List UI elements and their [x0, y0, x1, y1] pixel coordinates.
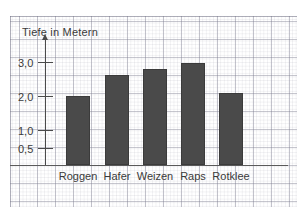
bar-roggen[interactable]: [66, 96, 90, 165]
bar-hafer[interactable]: [105, 75, 129, 165]
y-tick-label-1: 2,0: [18, 91, 33, 103]
bar-weizen[interactable]: [143, 69, 167, 165]
y-tick-mark-0: [38, 62, 53, 63]
x-axis-line: [10, 165, 288, 166]
bar-rotklee[interactable]: [219, 93, 243, 165]
y-tick-label-3: 0,5: [18, 143, 33, 155]
y-tick-mark-2: [38, 130, 53, 131]
bar-chart: Tiefe in Metern 3,02,01,00,5 RoggenHafer…: [0, 0, 297, 207]
x-tick-label-rotklee: Rotklee: [197, 170, 265, 182]
chart-title: Tiefe in Metern: [22, 26, 98, 38]
y-tick-label-0: 3,0: [18, 57, 33, 69]
y-tick-mark-1: [38, 96, 53, 97]
y-tick-mark-3: [38, 148, 53, 149]
bar-raps[interactable]: [181, 63, 205, 165]
y-tick-label-2: 1,0: [18, 125, 33, 137]
